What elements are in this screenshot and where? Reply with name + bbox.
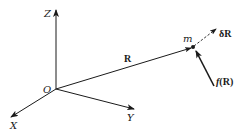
force-label: f(R) xyxy=(216,76,233,88)
mass-point xyxy=(191,45,195,49)
diagram-canvas: Z O X Y R m δR f(R) xyxy=(0,0,250,134)
origin-label: O xyxy=(43,84,51,95)
x-axis-label: X xyxy=(9,120,18,131)
z-axis-label: Z xyxy=(43,8,52,19)
displacement-vector-delta-r xyxy=(194,29,216,46)
force-vector-f xyxy=(196,51,214,86)
displacement-label: δR xyxy=(219,28,232,39)
mass-label: m xyxy=(183,33,192,44)
y-axis xyxy=(56,89,134,109)
force-label-arg: (R) xyxy=(219,76,233,88)
y-axis-label: Y xyxy=(127,112,135,123)
position-vector-label: R xyxy=(124,53,132,64)
